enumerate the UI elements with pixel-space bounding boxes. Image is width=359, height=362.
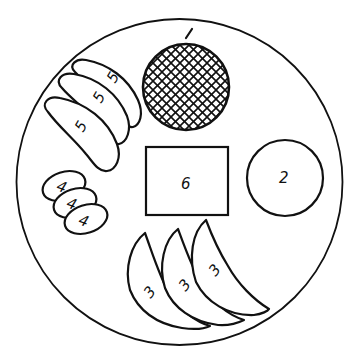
item-5-group: 5 5 5 — [45, 60, 141, 171]
label-1-mark — [186, 29, 192, 38]
item-3-group: 3 3 3 — [128, 220, 269, 329]
item-4-group: 4 4 4 — [39, 166, 111, 239]
plate-diagram: 5 5 5 4 4 4 6 2 3 3 — [0, 0, 359, 362]
item-1-crosshatched-circle — [143, 29, 229, 130]
label-2: 2 — [279, 169, 289, 187]
item-6-rectangle: 6 — [146, 147, 228, 215]
label-6: 6 — [181, 175, 191, 193]
item-2-circle: 2 — [247, 140, 323, 216]
